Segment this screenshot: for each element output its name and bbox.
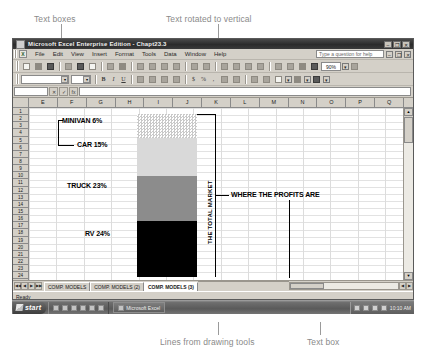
callout-line-minivan-horizontal[interactable] [58,120,63,121]
sheet-tab-comp-models[interactable]: COMP. MODELS [44,282,90,291]
column-header-l[interactable]: L [231,98,260,107]
show-desktop-icon[interactable] [53,305,59,311]
scroll-right-arrow-icon[interactable]: ▶ [406,282,413,290]
sheet-tab-comp-models-3[interactable]: COMP. MODELS (3) [144,282,198,291]
column-header-g[interactable]: G [87,98,116,107]
format-painter-icon[interactable] [171,61,182,71]
save-icon[interactable] [45,61,56,71]
research-icon[interactable] [117,61,128,71]
antivirus-icon[interactable] [372,305,378,311]
comma-icon[interactable]: , [209,75,218,84]
vertical-scroll-track[interactable] [404,143,413,272]
minimize-button[interactable]: – [384,41,392,48]
cancel-icon[interactable]: ✕ [49,87,58,96]
chart-wizard-icon[interactable] [273,61,284,71]
sort-desc-icon[interactable] [255,61,266,71]
row-header[interactable]: 22 [13,258,28,265]
volume-icon[interactable] [354,305,360,311]
messenger-icon[interactable] [89,305,95,311]
picture-icon[interactable] [309,61,320,71]
row-header[interactable]: 4 [13,129,28,136]
fill-color-icon[interactable] [292,74,303,84]
chart-label-rv[interactable]: RV 24% [85,230,110,237]
enter-icon[interactable]: ✓ [59,87,68,96]
permission-icon[interactable] [63,61,74,71]
font-color-icon[interactable] [311,74,322,84]
horizontal-scroll-thumb[interactable] [290,283,324,289]
borders-icon[interactable] [273,74,284,84]
column-header-n[interactable]: N [289,98,318,107]
borders-dropdown-arrow-icon[interactable]: ▾ [285,76,292,83]
currency-icon[interactable]: $ [189,75,198,84]
doc-restore-button[interactable]: ❐ [395,51,402,58]
percent-icon[interactable]: % [199,75,208,84]
start-button[interactable]: start [13,302,46,314]
mail-icon[interactable] [80,305,86,311]
menu-grip-handle[interactable] [14,50,17,58]
sort-asc-icon[interactable] [243,61,254,71]
menu-item-window[interactable]: Window [181,49,210,59]
taskbar-clock[interactable]: 10:10 AM [390,305,411,311]
row-header[interactable]: 21 [13,251,28,258]
open-icon[interactable] [33,61,44,71]
next-sheet-button[interactable]: ▶ [28,282,35,290]
row-header[interactable]: 1 [13,108,28,115]
chart-label-minivan[interactable]: MINIVAN 6% [62,117,102,124]
row-header[interactable]: 6 [13,144,28,151]
row-header[interactable]: 5 [13,137,28,144]
vertical-scroll-thumb[interactable] [404,117,413,143]
align-center-icon[interactable] [147,74,158,84]
ask-a-question-input[interactable]: Type a question for help [316,50,384,58]
row-header[interactable]: 8 [13,158,28,165]
menu-item-view[interactable]: View [67,49,88,59]
last-sheet-button[interactable]: ▶▶ [35,282,42,290]
folder-icon[interactable] [98,305,104,311]
row-header[interactable]: 10 [13,172,28,179]
row-header[interactable]: 17 [13,222,28,229]
menu-item-data[interactable]: Data [160,49,181,59]
column-header-k[interactable]: K [202,98,231,107]
help-icon[interactable] [349,61,360,71]
menu-item-tools[interactable]: Tools [138,49,160,59]
callout-line-car-horizontal[interactable] [58,145,74,146]
taskbar-button-excel[interactable]: Microsoft Excel [113,302,165,313]
italic-icon[interactable]: I [109,75,118,84]
scroll-down-arrow-icon[interactable]: ▼ [404,272,413,280]
align-right-icon[interactable] [159,74,170,84]
font-name-combobox[interactable]: ▾ [21,75,69,84]
row-header[interactable]: 15 [13,208,28,215]
row-header[interactable]: 3 [13,122,28,129]
merge-cells-icon[interactable] [171,74,182,84]
bracket-total-market-top[interactable] [197,114,216,115]
first-sheet-button[interactable]: ◀◀ [14,282,21,290]
formatting-toolbar-grip[interactable] [16,74,19,84]
spelling-icon[interactable] [105,61,116,71]
formula-input[interactable] [79,87,411,96]
prev-sheet-button[interactable]: ◀ [21,282,28,290]
row-header[interactable]: 11 [13,179,28,186]
row-header[interactable]: 14 [13,201,28,208]
scroll-left-arrow-icon[interactable]: ◀ [399,282,406,290]
row-header[interactable]: 23 [13,265,28,272]
restore-button[interactable]: ❐ [393,41,401,48]
media-player-icon[interactable] [62,305,68,311]
row-header[interactable]: 2 [13,115,28,122]
print-preview-icon[interactable] [87,61,98,71]
autosum-icon[interactable] [231,61,242,71]
doc-minimize-button[interactable]: – [386,51,393,58]
cut-icon[interactable] [135,61,146,71]
insert-function-icon[interactable]: fx [69,87,78,96]
column-header-p[interactable]: P [346,98,375,107]
window-title-bar[interactable]: Microsoft Excel Enterprise Edition - Cha… [13,39,413,49]
zoom-combobox[interactable]: 90% [321,62,341,71]
column-header-j[interactable]: J [173,98,202,107]
menu-item-format[interactable]: Format [111,49,138,59]
horizontal-scrollbar[interactable] [289,282,399,290]
row-header[interactable]: 7 [13,151,28,158]
paste-icon[interactable] [159,61,170,71]
chart-label-truck[interactable]: TRUCK 23% [67,182,107,189]
cell-grid[interactable]: MINIVAN 6% CAR 15% TRUCK 23% RV 24% THE … [29,108,403,280]
print-icon[interactable] [75,61,86,71]
align-left-icon[interactable] [135,74,146,84]
menu-item-edit[interactable]: Edit [49,49,67,59]
